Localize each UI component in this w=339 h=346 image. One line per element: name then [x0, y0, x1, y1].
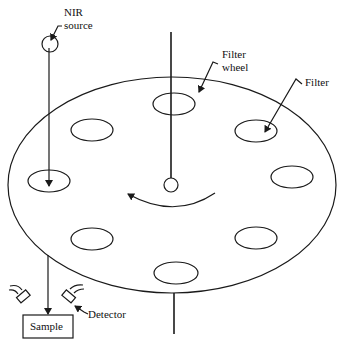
nir-source-pointer — [51, 26, 62, 40]
diagram-drawing — [0, 0, 339, 346]
filter-wheel-pointer — [199, 62, 218, 92]
filter-wheel-disc — [8, 77, 336, 293]
filter-wheel-label-line1: Filter — [222, 48, 246, 60]
nir-source-icon — [42, 36, 58, 52]
diagram-canvas: NIR source Filter wheel Filter Detector … — [0, 0, 339, 346]
detector-label: Detector — [88, 308, 126, 320]
detector-left-icon — [9, 286, 30, 303]
axle-icon — [164, 178, 178, 192]
filter-icon — [271, 166, 313, 188]
nir-source-label-line2: source — [64, 19, 93, 31]
filter-icon — [154, 262, 198, 284]
filter-icon — [235, 227, 277, 249]
detector-pointer — [75, 306, 88, 314]
filter-icon — [71, 119, 113, 141]
detector-right-icon — [62, 285, 84, 303]
filter-icon — [71, 228, 113, 250]
rotation-arrow-icon — [128, 193, 215, 207]
filter-label: Filter — [305, 76, 329, 88]
filter-wheel-label-line2: wheel — [222, 61, 248, 73]
filter-icon — [153, 93, 195, 115]
sample-label: Sample — [30, 320, 63, 332]
nir-source-label-line1: NIR — [64, 6, 83, 18]
